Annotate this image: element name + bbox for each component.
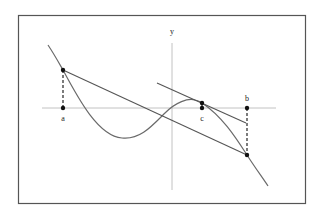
point-c [200,106,204,110]
mvt-diagram: y a c b [0,0,318,209]
point-b [245,106,249,110]
point-fb [245,153,249,157]
label-c: c [200,114,204,123]
point-fa [61,68,65,72]
point-a [61,106,65,110]
point-fc [200,101,204,105]
y-axis-label: y [170,27,174,36]
label-b: b [245,94,249,103]
label-a: a [61,114,65,123]
